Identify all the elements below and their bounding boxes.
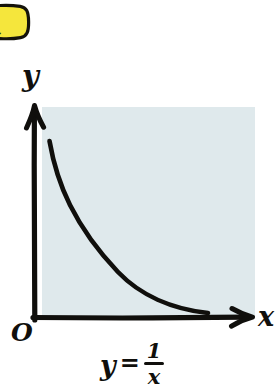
badge-glyph: 泉 xyxy=(0,7,8,41)
equation-equals-sign: = xyxy=(120,351,140,375)
figure-root: 泉 y x O y = 1 x xyxy=(0,0,278,388)
equation-numerator: 1 xyxy=(144,340,165,362)
equation-fraction: 1 x xyxy=(144,340,165,388)
y-axis-label: y xyxy=(22,62,39,91)
origin-label: O xyxy=(11,320,33,345)
y-axis xyxy=(27,106,44,321)
corner-stamp-badge: 泉 xyxy=(0,3,31,41)
equation-lhs: y xyxy=(100,352,116,379)
equation-denominator: x xyxy=(145,365,164,387)
x-axis-label: x xyxy=(258,303,274,330)
plot-canvas xyxy=(0,55,278,345)
equation-caption: y = 1 x xyxy=(100,340,164,388)
